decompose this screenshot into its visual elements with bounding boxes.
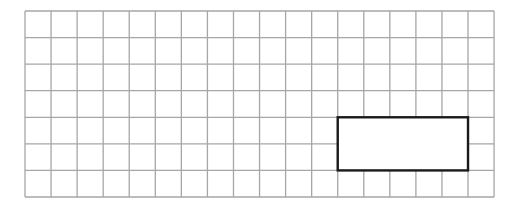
highlighted-rectangle <box>338 117 468 170</box>
grid-diagram <box>0 0 509 210</box>
